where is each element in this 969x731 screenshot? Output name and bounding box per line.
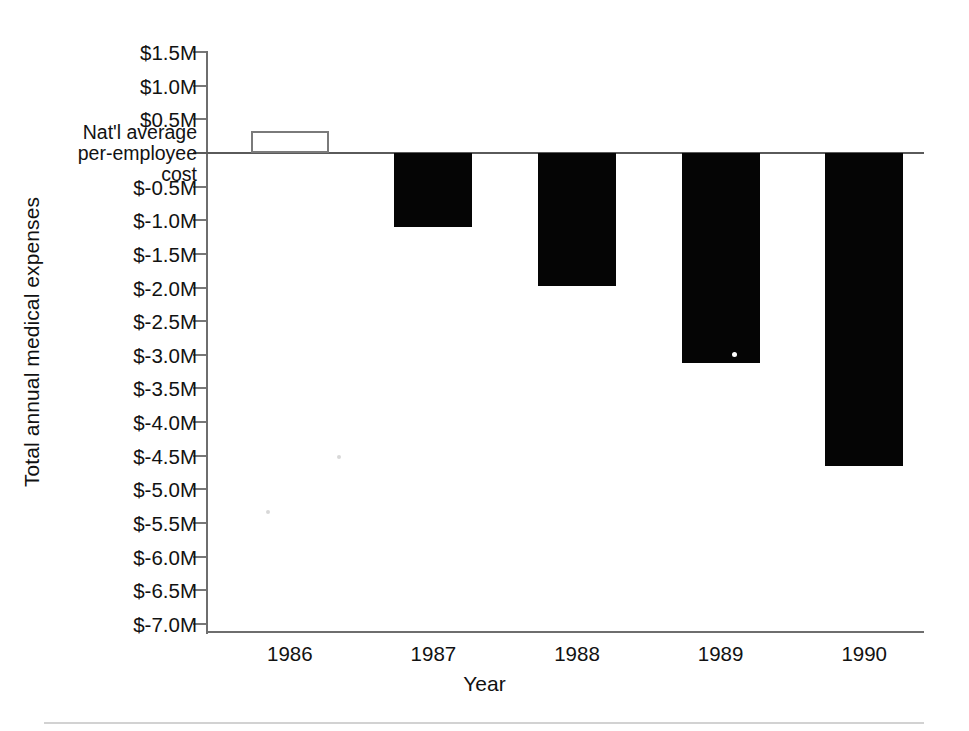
- bar-chart-figure: Total annual medical expenses $1.5M$1.0M…: [0, 0, 969, 731]
- x-axis-tick-label: 1987: [411, 642, 457, 666]
- y-axis-tick-label: $-1.5M: [133, 242, 197, 265]
- scan-speck: [732, 352, 737, 357]
- y-axis-title: Total annual medical expenses: [20, 192, 44, 492]
- y-axis-tick-label: $-5.0M: [133, 478, 197, 501]
- y-axis-tick-label: $-2.5M: [133, 310, 197, 333]
- scan-speck: [266, 510, 270, 514]
- x-axis-title: Year: [0, 672, 969, 696]
- y-axis-tick-label-line: per-employee: [78, 142, 197, 163]
- x-axis-tick-label: 1986: [267, 642, 313, 666]
- x-axis-tick-label: 1989: [698, 642, 744, 666]
- y-axis-tick-label: $-4.0M: [133, 411, 197, 434]
- scan-speck: [337, 455, 341, 459]
- y-axis-tick-label: $-6.0M: [133, 545, 197, 568]
- bar-1986: [251, 131, 329, 153]
- y-axis-tick-label: $1.5M: [140, 41, 197, 64]
- bar-1990: [825, 153, 903, 466]
- bar-1988: [538, 153, 616, 286]
- page-bottom-rule: [44, 722, 924, 724]
- y-axis-tick-label: $-3.0M: [133, 343, 197, 366]
- y-axis-tick-label: $-7.0M: [133, 613, 197, 636]
- x-axis-tick-label: 1990: [841, 642, 887, 666]
- y-axis-tick-label: $1.0M: [140, 74, 197, 97]
- x-axis-line: [206, 631, 924, 633]
- y-axis-tick-label: $-6.5M: [133, 579, 197, 602]
- bar-1989: [682, 153, 760, 363]
- y-axis-tick-label: $-4.5M: [133, 444, 197, 467]
- x-axis-tick-label: 1988: [554, 642, 600, 666]
- y-axis-tick-label: $-0.5M: [133, 175, 197, 198]
- plot-area: $1.5M$1.0M$0.5MNat'l averageper-employee…: [206, 40, 924, 633]
- y-axis-tick-label: $-2.0M: [133, 276, 197, 299]
- bar-1987: [394, 153, 472, 227]
- y-axis-tick-label: $-5.5M: [133, 512, 197, 535]
- y-axis-tick-label-line: Nat'l average: [78, 121, 197, 142]
- y-axis-line: [206, 51, 208, 634]
- y-axis-tick-label: $-3.5M: [133, 377, 197, 400]
- y-axis-tick-label: $-1.0M: [133, 209, 197, 232]
